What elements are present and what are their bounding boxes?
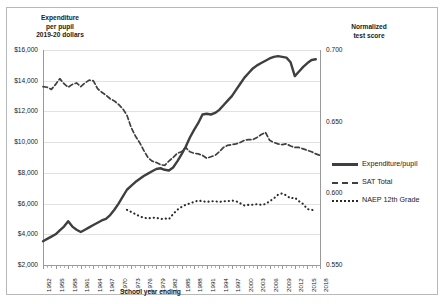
x-axis-tick: [123, 266, 124, 268]
x-axis-tick-label: 2000: [247, 278, 254, 292]
x-axis-tick-label: 1967: [108, 278, 115, 292]
x-axis-tick-label: 1952: [45, 278, 52, 292]
x-axis-tick: [186, 266, 187, 268]
left-axis-tick-label: $12,000: [2, 107, 38, 114]
x-axis-tick: [253, 266, 254, 268]
legend-item[interactable]: SAT Total: [332, 176, 440, 194]
x-axis-tick: [119, 266, 120, 269]
x-axis-tick-label: 1964: [96, 278, 103, 292]
x-axis-tick: [249, 266, 250, 268]
left-axis-tick-label: $16,000: [2, 46, 38, 53]
x-axis-tick: [43, 266, 44, 269]
x-axis-tick: [257, 266, 258, 269]
x-axis-tick: [278, 266, 279, 268]
left-axis-tick-label: $2,000: [2, 261, 38, 268]
right-axis-tick-label: 0.550: [326, 261, 372, 268]
x-axis-tick: [106, 266, 107, 269]
x-axis-tick: [182, 266, 183, 269]
x-axis-tick: [81, 266, 82, 269]
x-axis-tick: [110, 266, 111, 268]
x-axis-tick-label: 2009: [285, 278, 292, 292]
right-axis-tick-label: 0.700: [326, 46, 372, 53]
x-axis-tick-label: 2012: [297, 278, 304, 292]
x-axis-tick-label: 1958: [71, 278, 78, 292]
x-axis-tick: [114, 266, 115, 268]
x-axis-tick-label: 1991: [209, 278, 216, 292]
x-axis-tick: [51, 266, 52, 268]
x-axis-tick: [198, 266, 199, 268]
x-axis-tick: [316, 266, 317, 268]
x-axis-tick: [320, 266, 321, 269]
x-axis-tick-label: 1997: [234, 278, 241, 292]
legend-item[interactable]: Expenditure/pupil: [332, 158, 440, 176]
x-axis-tick: [207, 266, 208, 269]
x-axis-title: School year ending: [120, 288, 181, 295]
legend-swatch-icon: [332, 182, 358, 184]
x-axis-tick: [265, 266, 266, 268]
x-axis-tick: [261, 266, 262, 268]
x-axis-tick-label: 2015: [310, 278, 317, 292]
legend-item-label: NAEP 12th Grade: [362, 194, 419, 206]
x-axis-tick: [282, 266, 283, 269]
x-axis-tick: [232, 266, 233, 269]
x-axis-tick: [169, 266, 170, 269]
x-axis-tick-label: 1988: [196, 278, 203, 292]
right-axis-tick-label: 0.650: [326, 118, 372, 125]
series-line: [43, 79, 320, 166]
x-axis-tick: [131, 266, 132, 269]
x-axis-tick: [156, 266, 157, 269]
x-axis-tick-label: 1961: [83, 278, 90, 292]
legend-item-label: Expenditure/pupil: [362, 158, 418, 170]
x-axis-tick: [148, 266, 149, 268]
x-axis-tick: [98, 266, 99, 268]
x-axis-tick: [56, 266, 57, 269]
series-lines: [43, 50, 321, 266]
x-axis-tick: [64, 266, 65, 268]
x-axis-tick: [89, 266, 90, 268]
x-axis-tick: [236, 266, 237, 268]
plot-area: [43, 50, 320, 265]
x-axis-tick: [144, 266, 145, 269]
x-axis-tick: [223, 266, 224, 268]
x-axis-tick: [68, 266, 69, 269]
left-axis-tick-label: $6,000: [2, 200, 38, 207]
x-axis-tick-label: 2018: [322, 278, 329, 292]
x-axis-tick: [47, 266, 48, 268]
x-axis-tick: [77, 266, 78, 268]
left-axis-tick-label: $14,000: [2, 77, 38, 84]
x-axis-tick: [286, 266, 287, 268]
x-axis-tick: [215, 266, 216, 268]
x-axis-tick: [60, 266, 61, 268]
legend-item[interactable]: NAEP 12th Grade: [332, 194, 440, 212]
x-axis-tick: [102, 266, 103, 268]
x-axis-tick: [173, 266, 174, 268]
x-axis-tick: [274, 266, 275, 268]
x-axis-tick: [240, 266, 241, 268]
x-axis-tick: [161, 266, 162, 268]
x-axis-tick: [194, 266, 195, 269]
x-axis-tick: [211, 266, 212, 268]
x-axis-tick-label: 2006: [272, 278, 279, 292]
x-axis-tick: [228, 266, 229, 268]
legend-swatch-icon: [332, 163, 358, 166]
x-axis-tick: [312, 266, 313, 268]
x-axis-tick: [127, 266, 128, 268]
x-axis-tick: [152, 266, 153, 268]
legend: Expenditure/pupilSAT TotalNAEP 12th Grad…: [332, 158, 440, 212]
x-axis-tick: [72, 266, 73, 268]
x-axis-tick: [190, 266, 191, 268]
x-axis-tick: [140, 266, 141, 268]
right-axis-title: Normalizedtest score: [330, 23, 408, 40]
legend-swatch-icon: [332, 200, 358, 202]
legend-item-label: SAT Total: [362, 176, 392, 188]
x-axis-tick: [303, 266, 304, 268]
x-axis-tick: [291, 266, 292, 268]
x-axis-tick: [202, 266, 203, 268]
x-axis-tick: [177, 266, 178, 268]
x-axis-tick: [244, 266, 245, 269]
x-axis-tick-label: 1985: [184, 278, 191, 292]
left-axis-tick-label: $8,000: [2, 169, 38, 176]
x-axis-tick: [135, 266, 136, 268]
x-axis-tick: [299, 266, 300, 268]
x-axis-tick: [307, 266, 308, 269]
